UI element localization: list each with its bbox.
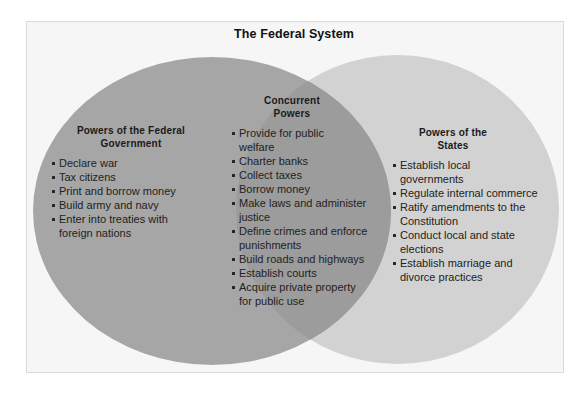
list-item: Collect taxes [232,168,392,182]
list-item-text: Acquire private property for public use [239,281,356,307]
federal-heading-line1: Powers of the Federal [52,124,210,137]
list-item: Provide for public welfare [232,126,349,154]
list-item-text: Print and borrow money [59,185,176,197]
list-item: Charter banks [232,154,392,168]
bullet-icon [232,132,235,135]
list-item: Establish courts [232,266,392,280]
list-item: Establish local governments [393,158,490,186]
bullet-icon [52,190,55,193]
list-item: Acquire private property for public use [232,280,369,308]
list-item-text: Declare war [59,157,118,169]
list-item-text: Define crimes and enforce punishments [239,225,367,251]
bullet-icon [232,202,235,205]
bullet-icon [52,162,55,165]
list-item-text: Establish marriage and divorce practices [400,257,513,283]
bullet-icon [393,164,396,167]
federal-powers-list: Declare war Tax citizens Print and borro… [52,156,222,240]
list-item-text: Borrow money [239,183,310,195]
states-powers-group: Powers of the States Establish local gov… [393,126,543,284]
list-item: Make laws and administer justice [232,196,389,224]
list-item: Enter into treaties with foreign nations [52,212,184,240]
bullet-icon [232,272,235,275]
list-item-text: Conduct local and state elections [400,229,515,255]
bullet-icon [52,218,55,221]
concurrent-heading-line1: Concurrent [232,94,352,107]
list-item: Establish marriage and divorce practices [393,256,520,284]
bullet-icon [393,206,396,209]
list-item-text: Collect taxes [239,169,302,181]
list-item: Build army and navy [52,198,222,212]
list-item: Borrow money [232,182,392,196]
federal-heading-line2: Government [52,137,210,150]
list-item-text: Build army and navy [59,199,159,211]
bullet-icon [52,176,55,179]
states-heading-line1: Powers of the [393,126,513,139]
list-item-text: Charter banks [239,155,308,167]
concurrent-heading: Concurrent Powers [232,94,352,120]
states-heading-line2: States [393,139,513,152]
list-item-text: Provide for public welfare [239,127,324,153]
concurrent-powers-list: Provide for public welfare Charter banks… [232,126,392,308]
list-item-text: Establish courts [239,267,317,279]
diagram-title: The Federal System [0,27,588,41]
concurrent-powers-group: Concurrent Powers Provide for public wel… [232,94,392,308]
list-item: Tax citizens [52,170,222,184]
bullet-icon [232,188,235,191]
list-item: Print and borrow money [52,184,222,198]
bullet-icon [393,262,396,265]
list-item: Regulate internal commerce [393,186,543,200]
states-heading: Powers of the States [393,126,513,152]
list-item: Declare war [52,156,222,170]
list-item-text: Make laws and administer justice [239,197,366,223]
list-item-text: Regulate internal commerce [400,187,538,199]
bullet-icon [52,204,55,207]
list-item-text: Tax citizens [59,171,116,183]
list-item: Ratify amendments to the Constitution [393,200,530,228]
bullet-icon [232,286,235,289]
list-item-text: Ratify amendments to the Constitution [400,201,525,227]
list-item: Build roads and highways [232,252,392,266]
concurrent-heading-line2: Powers [232,107,352,120]
bullet-icon [232,160,235,163]
bullet-icon [232,258,235,261]
list-item: Define crimes and enforce punishments [232,224,389,252]
federal-powers-group: Powers of the Federal Government Declare… [52,124,222,240]
bullet-icon [232,174,235,177]
list-item-text: Enter into treaties with foreign nations [59,213,168,239]
federal-heading: Powers of the Federal Government [52,124,210,150]
bullet-icon [232,230,235,233]
list-item: Conduct local and state elections [393,228,525,256]
states-powers-list: Establish local governments Regulate int… [393,158,543,284]
list-item-text: Build roads and highways [239,253,364,265]
bullet-icon [393,234,396,237]
list-item-text: Establish local governments [400,159,470,185]
bullet-icon [393,192,396,195]
